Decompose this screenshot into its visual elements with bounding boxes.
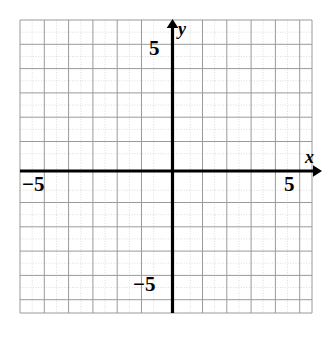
x-axis-tick-label-positive: 5 — [284, 174, 295, 195]
y-axis-tick-label-negative: −5 — [133, 274, 155, 295]
coordinate-plane-figure: 5 −5 −5 5 y x — [0, 0, 330, 338]
grid-and-axes-svg — [0, 0, 330, 338]
x-axis-tick-label-negative: −5 — [22, 174, 44, 195]
x-axis-name-label: x — [305, 148, 314, 166]
y-axis-tick-label-positive: 5 — [149, 38, 160, 59]
y-axis-name-label: y — [178, 20, 186, 38]
